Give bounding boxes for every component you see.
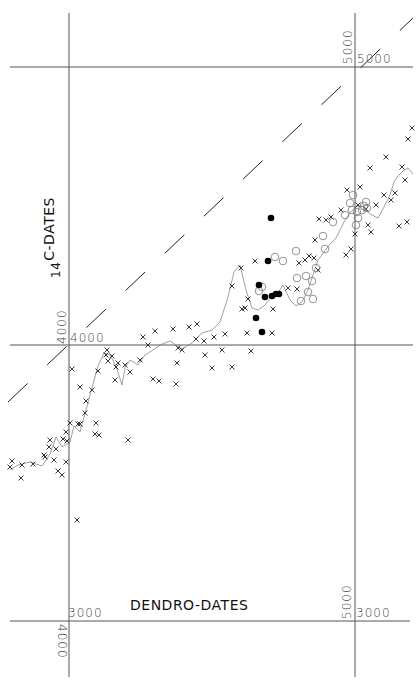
x-marker — [75, 518, 80, 523]
calibration-curve — [10, 168, 413, 470]
x-marker — [245, 331, 250, 336]
x-marker — [202, 339, 207, 344]
open-circle-marker — [341, 211, 349, 219]
x-marker — [128, 370, 133, 375]
x-marker — [405, 220, 410, 225]
x-marker — [20, 463, 25, 468]
x-marker — [286, 286, 291, 291]
x-marker — [64, 430, 69, 435]
series-filled-dots — [253, 215, 283, 336]
x-marker — [113, 378, 118, 383]
x-marker — [10, 459, 15, 464]
filled-dot-marker — [256, 282, 263, 289]
tick-label-mid-left-vertical: 4000 — [56, 309, 68, 344]
x-axis-title: DENDRO-DATES — [130, 598, 248, 612]
x-marker — [195, 322, 200, 327]
x-marker — [212, 335, 217, 340]
open-circle-marker — [297, 297, 305, 305]
x-marker — [374, 203, 379, 208]
chart-canvas — [0, 0, 419, 691]
x-marker — [406, 137, 411, 142]
x-marker — [47, 445, 52, 450]
filled-dot-marker — [276, 291, 283, 298]
x-marker — [175, 361, 180, 366]
x-marker — [358, 185, 363, 190]
tick-label-bottom-left-horizontal: 3000 — [68, 607, 103, 619]
tick-label-bottom-right-vertical: 5000 — [341, 584, 353, 619]
open-circle-marker — [292, 247, 300, 255]
x-marker — [382, 193, 387, 198]
x-marker — [203, 353, 208, 358]
x-marker — [48, 438, 53, 443]
x-marker — [317, 217, 322, 222]
y-axis-title-isotope: 14 — [49, 262, 63, 278]
open-circle-marker — [319, 232, 327, 240]
series-open-circles — [255, 191, 371, 305]
tick-label-bottom-left-vertical: 4000 — [56, 624, 68, 659]
tick-label-top-right-horizontal: 5000 — [357, 53, 392, 65]
open-circle-marker — [309, 295, 317, 303]
x-marker — [64, 460, 69, 465]
x-marker — [369, 230, 374, 235]
x-marker — [153, 329, 158, 334]
x-marker — [389, 198, 394, 203]
x-marker — [344, 253, 349, 258]
x-marker — [70, 367, 75, 372]
grid-lines — [10, 13, 413, 677]
x-marker — [403, 178, 408, 183]
open-circle-marker — [321, 245, 329, 253]
open-circle-marker — [349, 191, 357, 199]
x-marker — [249, 349, 254, 354]
filled-dot-marker — [265, 258, 272, 265]
filled-dot-marker — [259, 329, 266, 336]
x-marker — [297, 261, 302, 266]
x-marker — [271, 307, 276, 312]
x-marker — [19, 476, 24, 481]
open-circle-marker — [346, 199, 354, 207]
x-marker — [410, 126, 415, 131]
x-marker — [141, 335, 146, 340]
x-marker — [384, 155, 389, 160]
tick-label-mid-left-horizontal: 4000 — [70, 332, 105, 344]
x-marker — [78, 385, 83, 390]
tick-label-bottom-right-horizontal: 3000 — [356, 607, 391, 619]
x-marker — [313, 238, 318, 243]
open-circle-marker — [279, 257, 287, 265]
x-marker — [97, 433, 102, 438]
x-marker — [42, 453, 47, 458]
x-marker — [84, 399, 89, 404]
x-marker — [54, 447, 59, 452]
x-marker — [220, 348, 225, 353]
x-marker — [393, 191, 398, 196]
x-marker — [223, 332, 228, 337]
x-marker — [157, 379, 162, 384]
y-axis-title: 14C-DATES — [42, 197, 56, 278]
x-marker — [295, 287, 300, 292]
x-marker — [174, 382, 179, 387]
tick-label-top-right-vertical: 5000 — [342, 29, 354, 64]
x-marker — [312, 256, 317, 261]
x-marker — [349, 247, 354, 252]
x-marker — [52, 458, 57, 463]
x-marker — [270, 331, 275, 336]
x-marker — [210, 366, 215, 371]
x-marker — [324, 218, 329, 223]
x-marker — [194, 337, 199, 342]
x-marker — [106, 359, 111, 364]
x-marker — [303, 258, 308, 263]
x-marker — [151, 377, 156, 382]
x-marker — [366, 223, 371, 228]
x-marker — [253, 259, 258, 264]
open-circle-marker — [352, 221, 360, 229]
open-circle-marker — [293, 274, 301, 282]
x-marker — [171, 327, 176, 332]
x-marker — [105, 348, 110, 353]
x-marker — [345, 188, 350, 193]
x-marker — [230, 365, 235, 370]
x-marker — [60, 473, 65, 478]
y-axis-title-text: C-DATES — [41, 197, 57, 261]
open-circle-marker — [271, 253, 279, 261]
x-marker — [368, 166, 373, 171]
x-marker — [400, 165, 405, 170]
x-axis-title-text: DENDRO-DATES — [130, 597, 248, 613]
